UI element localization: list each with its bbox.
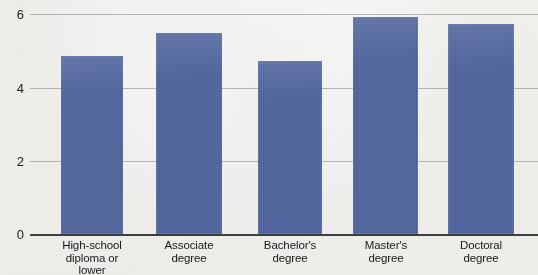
bar-associate-degree <box>156 33 222 234</box>
y-tick-label-4: 4 <box>0 82 24 95</box>
bar-bachelors-degree <box>258 61 322 234</box>
gridline-6 <box>30 14 538 15</box>
bar-masters-degree <box>353 17 418 234</box>
y-tick-label-6: 6 <box>0 8 24 21</box>
bar-doctoral-degree <box>448 24 514 234</box>
y-tick-label-0: 0 <box>0 228 24 241</box>
x-label-bachelors-degree: Bachelor's degree <box>246 239 334 264</box>
x-label-high-school-diploma-or-lower: High-school diploma or lower <box>48 239 136 275</box>
y-tick-label-2: 2 <box>0 155 24 168</box>
x-label-doctoral-degree: Doctoral degree <box>437 239 525 264</box>
bar-high-school-diploma-or-lower <box>61 56 123 234</box>
x-label-associate-degree: Associate degree <box>145 239 233 264</box>
bar-chart-figure: 6 4 2 0 High-school diploma or lower Ass… <box>0 0 538 275</box>
x-axis-baseline <box>30 234 538 236</box>
x-label-masters-degree: Master's degree <box>342 239 430 264</box>
plot-area: 6 4 2 0 High-school diploma or lower Ass… <box>0 0 538 275</box>
